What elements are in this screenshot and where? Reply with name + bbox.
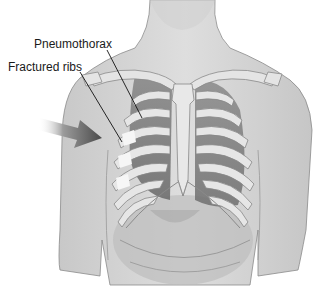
pneumothorax-label: Pneumothorax (34, 37, 112, 51)
fractured-ribs-label: Fractured ribs (8, 60, 82, 74)
